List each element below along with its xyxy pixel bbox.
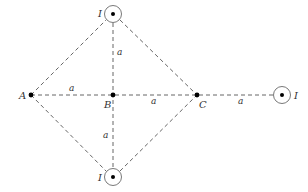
length-label-B-bottom: a bbox=[103, 130, 108, 140]
point-B-dot bbox=[111, 93, 116, 98]
point-A-dot bbox=[29, 93, 34, 98]
line-A-bottom bbox=[31, 95, 106, 171]
point-A-label: A bbox=[18, 90, 26, 101]
out-of-page-dot-icon bbox=[280, 93, 284, 97]
current-bottom: I bbox=[97, 169, 122, 186]
current-top-label: I bbox=[97, 8, 103, 19]
out-of-page-dot-icon bbox=[111, 12, 115, 16]
point-C-dot bbox=[195, 93, 200, 98]
current-bottom-label: I bbox=[97, 172, 103, 183]
current-top: I bbox=[97, 6, 122, 23]
length-label-top-B: a bbox=[117, 47, 122, 57]
length-label-AB: a bbox=[69, 83, 74, 93]
length-label-C-right: a bbox=[238, 96, 243, 106]
magnetic-field-diagram: A B C a a a a a I I I bbox=[0, 0, 308, 192]
point-C-label: C bbox=[199, 99, 207, 110]
current-right: I bbox=[274, 87, 300, 104]
line-top-C bbox=[120, 20, 197, 95]
current-right-label: I bbox=[293, 90, 299, 101]
line-bottom-C bbox=[120, 95, 197, 171]
out-of-page-dot-icon bbox=[111, 175, 115, 179]
length-label-BC: a bbox=[151, 96, 156, 106]
point-B-label: B bbox=[103, 99, 111, 110]
